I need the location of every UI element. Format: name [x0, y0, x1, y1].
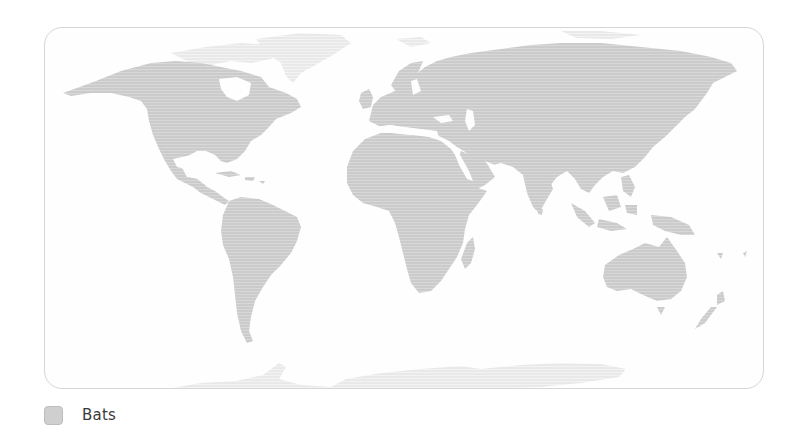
- antarctica: [166, 363, 626, 389]
- world-map: [44, 27, 764, 389]
- new-guinea: [651, 215, 695, 235]
- map-legend: Bats: [44, 404, 116, 426]
- map-canvas: [44, 27, 764, 389]
- australia: [603, 237, 687, 301]
- indonesia: [571, 195, 637, 231]
- central-america: [187, 177, 229, 205]
- new-zealand: [695, 291, 725, 329]
- india: [523, 171, 553, 213]
- north-america: [63, 61, 301, 193]
- legend-label-bats: Bats: [82, 406, 116, 424]
- south-america: [221, 197, 301, 343]
- philippines: [621, 175, 635, 197]
- legend-swatch-bats: [44, 406, 63, 425]
- caribbean: [215, 171, 265, 184]
- bat-range-regions: [63, 43, 747, 343]
- british-isles: [359, 89, 373, 109]
